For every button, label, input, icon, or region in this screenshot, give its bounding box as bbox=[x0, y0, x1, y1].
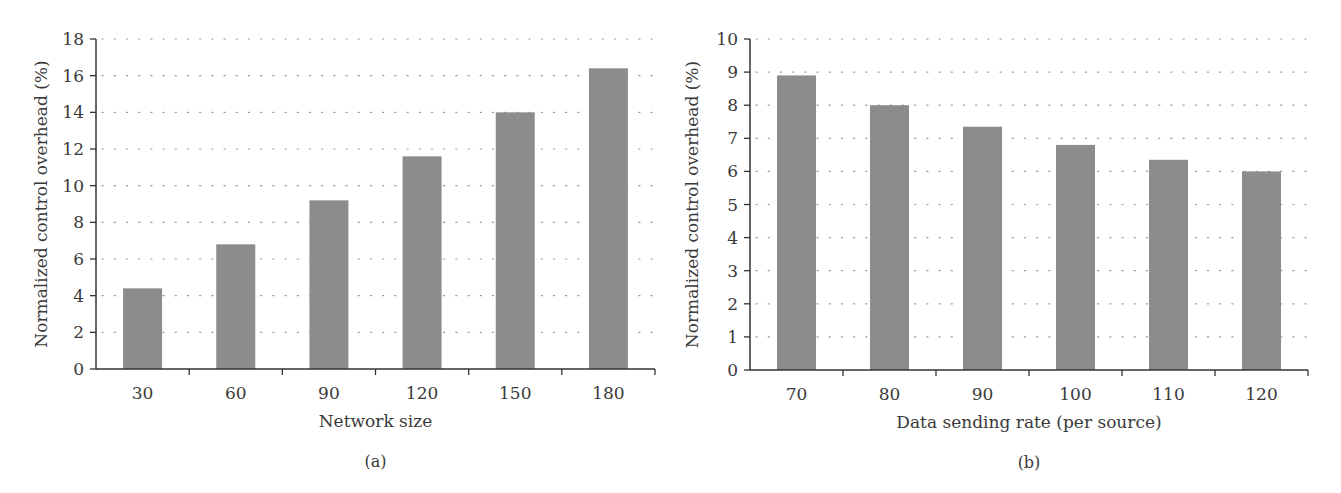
y-tick-label: 6 bbox=[73, 249, 84, 269]
y-tick-label: 9 bbox=[727, 62, 738, 82]
x-tick-label: 60 bbox=[225, 383, 247, 403]
bar bbox=[496, 112, 535, 369]
bar bbox=[963, 127, 1002, 370]
y-tick-label: 14 bbox=[62, 102, 84, 122]
x-tick-label: 120 bbox=[406, 383, 438, 403]
bar bbox=[1056, 145, 1095, 370]
y-tick-label: 4 bbox=[727, 228, 738, 248]
y-tick-label: 18 bbox=[62, 29, 84, 49]
bar bbox=[1242, 171, 1281, 370]
y-tick-label: 12 bbox=[62, 139, 84, 159]
x-tick-label: 150 bbox=[499, 383, 531, 403]
y-tick-label: 3 bbox=[727, 261, 738, 281]
bar bbox=[309, 200, 348, 369]
x-tick-label: 90 bbox=[972, 384, 994, 404]
bar bbox=[216, 244, 255, 369]
y-tick-label: 5 bbox=[727, 195, 738, 215]
x-tick-label: 120 bbox=[1245, 384, 1277, 404]
y-tick-label: 2 bbox=[73, 322, 84, 342]
x-tick-label: 80 bbox=[879, 384, 901, 404]
bar bbox=[870, 105, 909, 370]
y-tick-label: 10 bbox=[62, 176, 84, 196]
chart-a: 024681012141618306090120150180Network si… bbox=[0, 0, 670, 493]
y-tick-label: 1 bbox=[727, 327, 738, 347]
bar bbox=[1149, 160, 1188, 370]
x-tick-label: 100 bbox=[1059, 384, 1091, 404]
x-tick-label: 90 bbox=[318, 383, 340, 403]
bar bbox=[403, 156, 442, 369]
bar bbox=[777, 75, 816, 370]
y-tick-label: 6 bbox=[727, 161, 738, 181]
x-axis-label: Data sending rate (per source) bbox=[896, 412, 1161, 432]
y-tick-label: 2 bbox=[727, 294, 738, 314]
y-axis-label: Normalized control overhead (%) bbox=[31, 60, 51, 347]
y-axis-label: Normalized control overhead (%) bbox=[682, 61, 702, 348]
bar bbox=[589, 68, 628, 369]
y-tick-label: 10 bbox=[716, 29, 738, 49]
y-tick-label: 4 bbox=[73, 286, 84, 306]
x-tick-label: 30 bbox=[132, 383, 154, 403]
x-tick-label: 180 bbox=[592, 383, 624, 403]
chart-b: 012345678910708090100110120Data sending … bbox=[670, 0, 1341, 493]
x-axis-label: Network size bbox=[319, 411, 433, 431]
y-tick-label: 8 bbox=[73, 212, 84, 232]
y-tick-label: 7 bbox=[727, 128, 738, 148]
x-tick-label: 70 bbox=[786, 384, 808, 404]
panel-label: (a) bbox=[364, 452, 386, 471]
y-tick-label: 16 bbox=[62, 66, 84, 86]
panel-label: (b) bbox=[1018, 453, 1041, 472]
x-tick-label: 110 bbox=[1152, 384, 1184, 404]
bar bbox=[123, 288, 162, 369]
y-tick-label: 0 bbox=[727, 360, 738, 380]
y-tick-label: 0 bbox=[73, 359, 84, 379]
y-tick-label: 8 bbox=[727, 95, 738, 115]
